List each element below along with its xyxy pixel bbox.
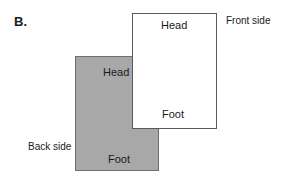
back-foot-text: Foot	[108, 153, 130, 165]
front-side-sheet: Head Foot	[132, 13, 217, 129]
front-foot-text: Foot	[162, 108, 184, 120]
front-side-label: Front side	[226, 15, 270, 26]
back-side-label: Back side	[28, 141, 71, 152]
front-head-text: Head	[161, 19, 187, 31]
back-head-text: Head	[103, 66, 129, 78]
panel-label: B.	[14, 14, 27, 29]
